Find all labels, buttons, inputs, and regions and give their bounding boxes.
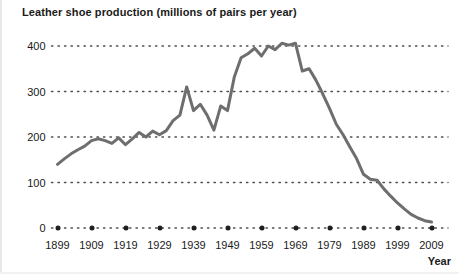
plot-area: 4003002001000189919091919192919391949195… <box>0 0 459 274</box>
x-axis-tick-marker <box>157 226 162 231</box>
x-axis-tick-marker <box>89 226 94 231</box>
x-axis-tick-marker <box>55 226 60 231</box>
x-axis-tick-marker <box>429 226 434 231</box>
y-axis-tick-label: 200 <box>6 131 46 143</box>
production-line <box>58 43 432 222</box>
x-axis-tick-marker <box>395 226 400 231</box>
y-axis-tick-label: 100 <box>6 177 46 189</box>
chart-figure: Leather shoe production (millions of pai… <box>0 0 459 274</box>
x-axis-tick-marker <box>123 226 128 231</box>
data-series-line <box>0 0 459 274</box>
x-axis-tick-marker <box>361 226 366 231</box>
x-axis-tick-label: 2009 <box>410 239 454 251</box>
x-axis-tick-marker <box>191 226 196 231</box>
y-axis-tick-label: 0 <box>6 222 46 234</box>
x-axis-tick-marker <box>293 226 298 231</box>
x-axis-tick-marker <box>225 226 230 231</box>
y-axis-tick-label: 300 <box>6 86 46 98</box>
x-axis-tick-marker <box>259 226 264 231</box>
x-axis-title: Year <box>428 255 451 267</box>
y-axis-tick-label: 400 <box>6 40 46 52</box>
x-axis-tick-marker <box>327 226 332 231</box>
